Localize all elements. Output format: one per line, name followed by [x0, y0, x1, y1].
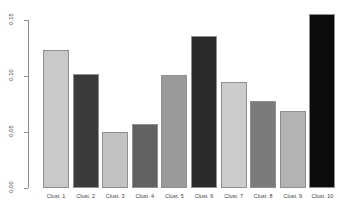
bar-chart: 0.000.050.100.15 Clust. 1Clust. 2Clust. … — [0, 0, 340, 219]
bar — [280, 111, 306, 188]
x-axis-tick-label: Clust. 10 — [303, 193, 340, 199]
plot-area: Clust. 1Clust. 2Clust. 3Clust. 4Clust. 5… — [0, 0, 340, 219]
bar — [43, 50, 69, 188]
bar — [309, 14, 335, 188]
bar — [102, 132, 128, 188]
bar — [73, 74, 99, 188]
bar — [221, 82, 247, 188]
bar — [191, 36, 217, 188]
bar — [132, 124, 158, 188]
bar — [250, 101, 276, 188]
bar — [161, 75, 187, 188]
